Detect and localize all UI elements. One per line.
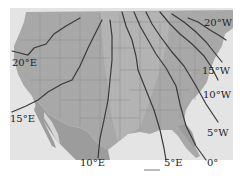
label-20W: 20°W	[204, 18, 232, 28]
label-10W: 10°W	[203, 90, 231, 100]
label-5W: 5°W	[207, 128, 229, 138]
label-5E: 5°E	[164, 158, 183, 168]
label-15W: 15°W	[202, 66, 230, 76]
label-10E: 10°E	[80, 158, 105, 168]
label-20E: 20°E	[12, 58, 37, 68]
label-0: 0°	[207, 158, 218, 168]
label-15E: 15°E	[10, 114, 35, 124]
